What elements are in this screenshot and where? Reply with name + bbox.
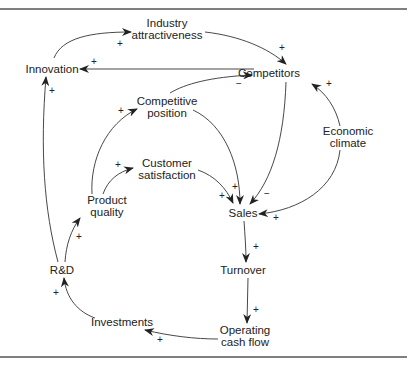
edge-industry-competitors [205, 32, 286, 64]
polarity-sign: + [53, 288, 59, 298]
edge-rd-innovation [43, 77, 58, 262]
polarity-sign: + [279, 43, 285, 53]
node-economic-climate: Economicclimate [323, 125, 374, 149]
edge-sales-turnover [244, 221, 246, 262]
node-operating-cash-flow: Operatingcash flow [220, 324, 271, 348]
polarity-sign: + [49, 86, 55, 96]
causal-loop-diagram [0, 0, 415, 370]
edge-turnover-cashflow [247, 278, 248, 323]
edge-quality-satisfaction [103, 168, 133, 194]
polarity-sign: + [219, 191, 225, 201]
polarity-sign: + [91, 57, 97, 67]
polarity-sign: + [115, 160, 121, 170]
edge-satisfaction-sales [198, 170, 233, 203]
polarity-sign: + [118, 106, 124, 116]
polarity-sign: + [273, 213, 279, 223]
node-investments: Investments [91, 316, 153, 328]
node-product-quality: Productquality [87, 194, 127, 218]
polarity-sign: − [236, 79, 242, 89]
polarity-sign: + [117, 39, 123, 49]
edge-quality-position [92, 109, 137, 194]
node-competitive-position: Competitiveposition [137, 95, 198, 119]
edge-investments-rd [64, 278, 95, 318]
edge-cashflow-investments [145, 330, 218, 339]
edge-competitors-sales [250, 82, 286, 204]
node-industry-attractiveness: Industryattractiveness [132, 17, 203, 41]
polarity-sign: + [253, 305, 259, 315]
node-customer-satisfaction: Customersatisfaction [138, 157, 196, 181]
node-innovation: Innovation [25, 63, 78, 75]
node-sales: Sales [229, 207, 258, 219]
polarity-sign: + [157, 335, 163, 345]
node-rd: R&D [50, 264, 74, 276]
polarity-sign: + [232, 182, 238, 192]
edge-economic-competitors [312, 84, 340, 126]
polarity-sign: + [76, 232, 82, 242]
polarity-sign: − [264, 189, 270, 199]
polarity-sign: + [326, 79, 332, 89]
node-turnover: Turnover [220, 264, 266, 276]
edge-economic-sales [259, 150, 340, 214]
node-competitors: Competitors [238, 67, 300, 79]
polarity-sign: + [253, 242, 259, 252]
